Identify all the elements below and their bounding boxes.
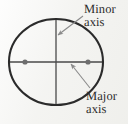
focus-point-left xyxy=(22,59,27,64)
focus-point-right xyxy=(85,59,90,64)
major-axis-leader-arrow xyxy=(71,64,90,88)
minor-axis-label-line2: axis xyxy=(84,16,116,29)
ellipse-diagram-figure: Minor axis Major axis xyxy=(0,0,128,124)
minor-axis-label-line1: Minor xyxy=(84,2,116,16)
major-axis-label: Major axis xyxy=(86,90,117,116)
major-axis-label-line1: Major xyxy=(86,89,117,103)
minor-axis-label: Minor axis xyxy=(84,3,116,29)
major-axis-label-line2: axis xyxy=(86,103,117,116)
